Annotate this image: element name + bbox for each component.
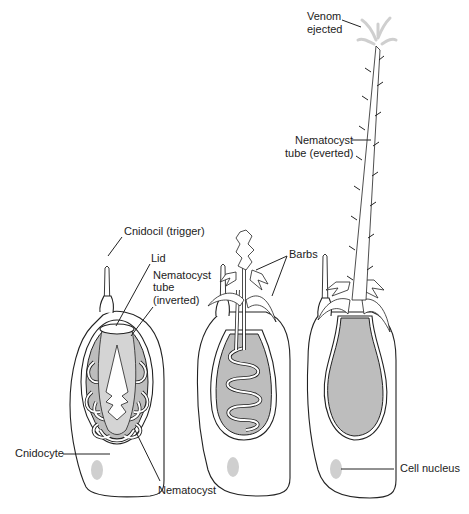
label-cell-nucleus: Cell nucleus bbox=[400, 462, 460, 474]
nucleus-2 bbox=[227, 457, 239, 477]
cell-undischarged bbox=[70, 266, 164, 497]
label-venom-2: ejected bbox=[307, 23, 342, 35]
label-nematocyst: Nematocyst bbox=[158, 484, 216, 496]
label-cnidocyte: Cnidocyte bbox=[15, 447, 64, 459]
label-tube-inverted-3: (inverted) bbox=[153, 294, 199, 306]
label-lid: Lid bbox=[151, 252, 166, 264]
cell-discharged bbox=[307, 18, 396, 498]
label-barbs: Barbs bbox=[289, 248, 318, 260]
label-cnidocil: Cnidocil (trigger) bbox=[124, 225, 205, 237]
label-tube-everted: Nematocyst bbox=[295, 134, 353, 146]
nucleus-3 bbox=[330, 459, 342, 479]
cell-discharging bbox=[197, 230, 290, 496]
label-tube-inverted: Nematocyst bbox=[153, 269, 211, 281]
label-venom: Venom bbox=[307, 10, 341, 22]
cnidocyte-diagram: Venom ejected Nematocyst tube (everted) … bbox=[0, 0, 469, 514]
nucleus-1 bbox=[91, 460, 103, 480]
label-tube-everted-2: tube (everted) bbox=[285, 147, 353, 159]
label-tube-inverted-2: tube bbox=[153, 281, 174, 293]
